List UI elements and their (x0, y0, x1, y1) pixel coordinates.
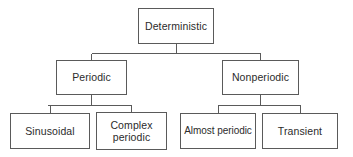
node-sinusoidal[interactable]: Sinusoidal (10, 113, 90, 149)
node-almost-periodic[interactable]: Almost periodic (180, 113, 256, 149)
node-complex-periodic[interactable]: Complex periodic (96, 112, 167, 150)
diagram-canvas: Deterministic Periodic Nonperiodic Sinus… (0, 0, 353, 157)
node-transient[interactable]: Transient (262, 113, 338, 149)
node-periodic[interactable]: Periodic (56, 60, 127, 95)
node-deterministic[interactable]: Deterministic (138, 8, 214, 44)
node-nonperiodic[interactable]: Nonperiodic (222, 60, 299, 95)
